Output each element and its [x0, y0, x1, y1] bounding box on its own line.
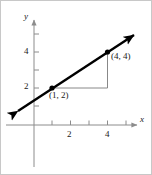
- y-axis-ticks: [34, 34, 39, 106]
- x-tick-label-2: 2: [67, 130, 72, 139]
- y-tick-label-2: 2: [24, 82, 29, 91]
- graph-line: [18, 35, 134, 111]
- x-axis-label: x: [140, 115, 144, 124]
- y-tick-label-4: 4: [24, 47, 29, 56]
- y-axis: [34, 20, 39, 167]
- x-axis-ticks: [52, 121, 126, 126]
- graph-figure: y x 4 2 2 4 (1, 2) (4, 4): [0, 0, 152, 175]
- x-axis: [6, 121, 137, 126]
- point-label-4-4: (4, 4): [111, 52, 131, 61]
- point-label-1-2: (1, 2): [49, 91, 69, 100]
- data-point-4-4: [105, 49, 110, 54]
- y-axis-label: y: [24, 12, 28, 21]
- x-tick-label-4: 4: [105, 130, 110, 139]
